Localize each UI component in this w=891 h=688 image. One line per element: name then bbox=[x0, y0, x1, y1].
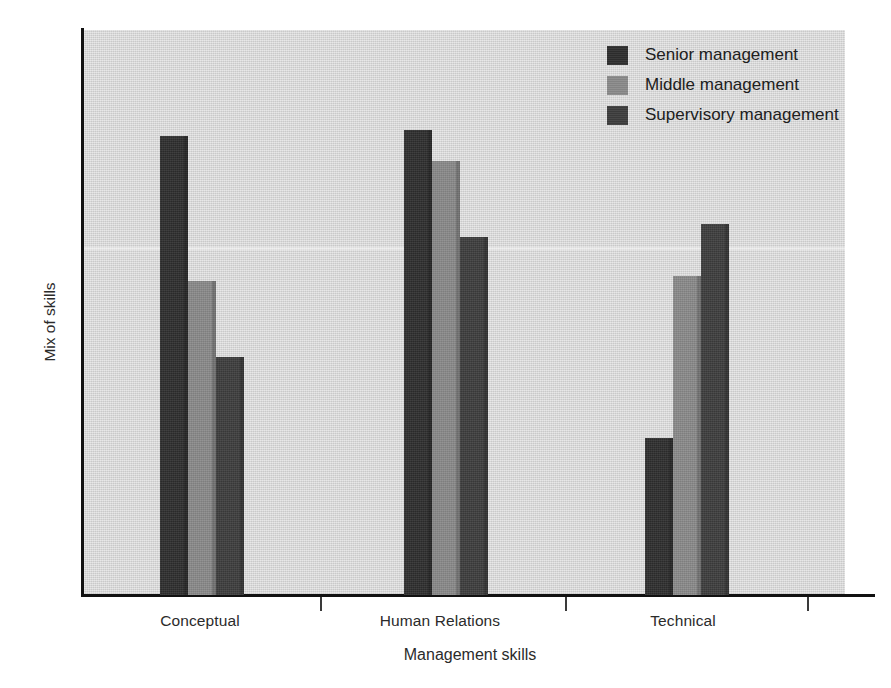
x-axis-label-conceptual: Conceptual bbox=[160, 612, 239, 630]
legend-label-supervisory-management: Supervisory management bbox=[645, 105, 839, 125]
x-axis-tick bbox=[320, 597, 322, 611]
bar-chart-figure: Conceptual Human Relations Technical Man… bbox=[0, 0, 891, 688]
bar-human-relations-supervisory-management bbox=[460, 237, 488, 595]
legend-label-senior-management: Senior management bbox=[645, 45, 798, 65]
y-axis-line bbox=[81, 28, 84, 597]
x-axis-label-technical: Technical bbox=[650, 612, 716, 630]
legend-item-middle-management: Middle management bbox=[607, 70, 839, 100]
bar-technical-middle-management bbox=[673, 276, 701, 595]
legend-swatch-icon bbox=[607, 106, 628, 125]
bar-technical-supervisory-management bbox=[701, 224, 729, 595]
legend-item-supervisory-management: Supervisory management bbox=[607, 100, 839, 130]
legend-swatch-icon bbox=[607, 76, 628, 95]
bar-technical-senior-management bbox=[645, 438, 673, 595]
x-axis-tick bbox=[565, 597, 567, 611]
legend-label-middle-management: Middle management bbox=[645, 75, 799, 95]
bar-conceptual-senior-management bbox=[160, 136, 188, 595]
x-axis-tick bbox=[807, 597, 809, 611]
x-axis-title: Management skills bbox=[404, 646, 537, 664]
legend-item-senior-management: Senior management bbox=[607, 40, 839, 70]
chart-legend: Senior management Middle management Supe… bbox=[607, 40, 839, 130]
x-axis-label-human-relations: Human Relations bbox=[380, 612, 500, 630]
bar-conceptual-middle-management bbox=[188, 281, 216, 595]
y-axis-title: Mix of skills bbox=[41, 282, 59, 361]
bar-human-relations-senior-management bbox=[404, 130, 432, 595]
legend-swatch-icon bbox=[607, 46, 628, 65]
bar-conceptual-supervisory-management bbox=[216, 357, 244, 595]
bar-human-relations-middle-management bbox=[432, 161, 460, 595]
